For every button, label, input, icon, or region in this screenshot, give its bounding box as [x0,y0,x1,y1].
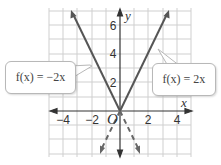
callout-right: f(x) = 2x [152,63,216,96]
xtick-4: 4 [174,113,181,127]
y-axis-up-arrow-icon [118,9,123,16]
xtick-2: 2 [145,113,152,127]
x-axis-label: x [180,95,187,110]
dashed-right-arrow-icon [135,146,140,155]
callout-left: f(x) = −2x [5,61,76,94]
dashed-line-right [120,111,139,150]
xtick-neg2: −2 [85,113,99,127]
ytick-2: 2 [110,76,117,90]
dashed-left-arrow-icon [100,146,105,155]
ytick-4: 4 [110,47,117,61]
origin-label: O [107,111,118,127]
xtick-neg4: −4 [56,113,70,127]
y-axis-down-arrow-icon [118,150,123,157]
callout-right-text: f(x) = 2x [163,72,206,87]
ytick-6: 6 [110,19,117,33]
y-axis-label: y [123,8,131,23]
callout-left-text: f(x) = −2x [16,70,66,85]
